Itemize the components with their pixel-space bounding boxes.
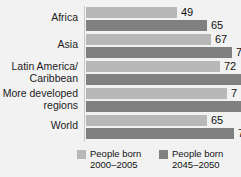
category-label-more-developed-regions: More developed regions <box>0 88 78 111</box>
bar-group: 72 7 <box>86 60 241 87</box>
bar-value-light-world: 65 <box>211 115 223 126</box>
bar-value-dark-asia: 7 <box>236 47 241 58</box>
chart-row: Asia 67 7 <box>0 33 241 60</box>
chart-row: Latin America/ Caribbean 72 7 <box>0 60 241 87</box>
life-expectancy-bar-chart: Africa 49 65 Asia 67 7 Latin America/ Ca… <box>0 0 241 177</box>
chart-row: More developed regions 7 7 <box>0 87 241 114</box>
bar-group: 7 7 <box>86 87 241 114</box>
bar-dark-world[interactable] <box>86 128 234 139</box>
bar-value-light-latin-america-caribbean: 72 <box>224 61 236 72</box>
category-label-world: World <box>0 120 78 132</box>
category-label-latin-america-caribbean: Latin America/ Caribbean <box>0 61 78 84</box>
legend-item-people-born-2000-2005[interactable]: People born 2000–2005 <box>77 148 141 170</box>
bar-light-asia[interactable] <box>86 34 211 45</box>
light-gray-swatch-icon <box>77 150 86 159</box>
category-label-asia: Asia <box>0 39 78 51</box>
bar-light-more-developed-regions[interactable] <box>86 88 227 99</box>
bar-dark-africa[interactable] <box>86 20 207 31</box>
chart-row: Africa 49 65 <box>0 6 241 33</box>
bar-group: 67 7 <box>86 33 241 60</box>
chart-row: World 65 7 <box>0 114 241 141</box>
bar-light-latin-america-caribbean[interactable] <box>86 61 220 72</box>
dark-gray-swatch-icon <box>159 150 168 159</box>
bar-light-world[interactable] <box>86 115 207 126</box>
bar-value-light-africa: 49 <box>181 7 193 18</box>
bar-value-light-asia: 67 <box>215 34 227 45</box>
bar-value-dark-africa: 65 <box>211 20 223 31</box>
legend-label-people-born-2045-2050: People born 2045–2050 <box>172 148 223 170</box>
plot-area: Africa 49 65 Asia 67 7 Latin America/ Ca… <box>0 0 241 145</box>
bar-dark-more-developed-regions[interactable] <box>86 101 241 112</box>
category-label-africa: Africa <box>0 12 78 24</box>
bar-group: 65 7 <box>86 114 241 141</box>
bar-value-light-more-developed-regions: 7 <box>231 88 237 99</box>
bar-dark-latin-america-caribbean[interactable] <box>86 74 241 85</box>
bar-value-dark-world: 7 <box>238 128 241 139</box>
chart-legend: People born 2000–2005 People born 2045–2… <box>0 148 241 177</box>
legend-label-people-born-2000-2005: People born 2000–2005 <box>90 148 141 170</box>
bar-dark-asia[interactable] <box>86 47 232 58</box>
bar-group: 49 65 <box>86 6 241 33</box>
bar-light-africa[interactable] <box>86 7 177 18</box>
legend-item-people-born-2045-2050[interactable]: People born 2045–2050 <box>159 148 223 170</box>
